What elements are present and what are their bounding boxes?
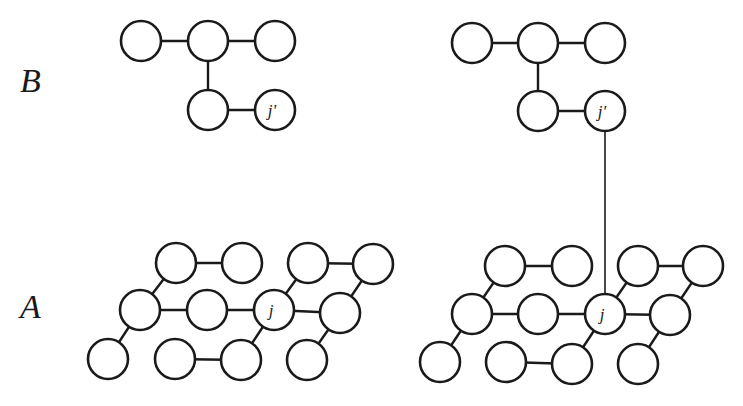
right-panel: j'j	[420, 23, 723, 384]
graph-node	[552, 246, 592, 286]
graph-node	[518, 91, 558, 131]
graph-node	[222, 243, 262, 283]
graph-node	[187, 290, 227, 330]
graph-node	[254, 290, 294, 330]
graph-node	[585, 23, 625, 63]
graph-node	[485, 246, 525, 286]
graph-node	[255, 21, 295, 61]
graph-node	[452, 23, 492, 63]
graph-node	[155, 339, 195, 379]
graph-node	[320, 293, 360, 333]
graph-node	[288, 243, 328, 283]
graph-node	[585, 294, 625, 334]
graph-node	[618, 344, 658, 384]
node-label: j'	[596, 102, 607, 121]
layer-label-b: B	[20, 62, 41, 99]
graph-node	[518, 294, 558, 334]
node-label: j	[598, 305, 605, 324]
graph-node	[683, 246, 723, 286]
graph-node	[188, 21, 228, 61]
graph-node	[121, 21, 161, 61]
graph-node	[88, 339, 128, 379]
bilayer-graph-diagram: B A j'jj'j	[0, 0, 743, 406]
graph-b: j'	[121, 21, 295, 130]
graph-node	[650, 295, 690, 335]
graph-node	[353, 244, 393, 284]
graph-node	[420, 342, 460, 382]
graph-b: j'	[452, 23, 625, 131]
graph-node	[486, 342, 526, 382]
graph-node	[518, 23, 558, 63]
graph-node	[552, 344, 592, 384]
layer-label-a: A	[18, 288, 41, 325]
node-label: j'	[266, 101, 277, 120]
left-panel: j'j	[88, 21, 393, 380]
graph-a: j	[88, 243, 393, 380]
graph-node	[156, 243, 196, 283]
graph-panels: j'jj'j	[88, 21, 723, 384]
graph-node	[221, 340, 261, 380]
graph-a: j	[420, 246, 723, 384]
graph-node	[618, 246, 658, 286]
graph-node	[120, 290, 160, 330]
graph-node	[188, 90, 228, 130]
node-label: j	[267, 301, 274, 320]
graph-node	[452, 294, 492, 334]
graph-node	[287, 340, 327, 380]
